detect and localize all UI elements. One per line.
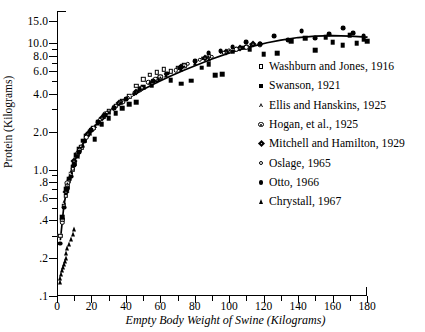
filled-square-marker-icon [261,52,266,57]
open-circle-marker-icon [186,62,190,66]
data-point [93,137,98,142]
filled-circle-marker-icon [123,97,128,102]
open-square-marker-icon [141,77,145,81]
data-point [164,73,168,78]
circle-dot-marker-icon [258,122,263,127]
y-tick-major [49,56,57,57]
x-tick-minor [143,296,144,301]
filled-square-marker-icon [93,137,98,142]
filled-triangle-marker-icon [259,199,263,204]
data-point [330,40,335,45]
filled-circle-marker-icon [299,29,304,34]
filled-circle-marker-icon [230,45,235,50]
data-point [58,241,63,246]
filled-square-marker-icon [179,81,184,86]
y-tick-label: 4.0 [33,88,48,100]
filled-square-marker-icon [220,72,225,77]
legend-item: Hogan, et al., 1925 [253,115,423,134]
filled-circle-marker-icon [313,36,318,41]
legend-label: Ellis and Hanskins, 1925 [269,99,386,112]
legend-item: Oslage, 1965 [253,153,423,172]
x-axis-title: Empty Body Weight of Swine (Kilograms) [0,313,425,328]
y-tick-major [49,170,57,171]
filled-circle-marker-icon [61,205,66,210]
x-tick-label: 60 [155,300,167,312]
x-tick-label: 180 [358,300,375,312]
data-point [111,106,116,111]
y-tick-label: .2 [39,252,48,264]
filled-square-marker-icon [206,62,211,67]
data-point [351,31,356,36]
data-point [72,163,77,168]
filled-square-marker-icon [134,100,139,105]
x-tick-minor [109,296,110,301]
filled-circle-marker-icon [206,50,211,55]
legend: Washburn and Jones, 1916Swanson, 1921Ell… [253,57,423,211]
filled-circle-marker-icon [72,163,77,168]
legend-marker [253,103,269,107]
filled-circle-marker-icon [111,106,116,111]
y-tick-major [49,198,57,199]
filled-circle-marker-icon [218,48,223,53]
data-point [218,48,223,53]
y-tick-label: 1.0 [33,164,48,176]
data-point [179,66,183,71]
data-point [206,62,211,67]
y-tick-major [49,182,57,183]
y-tick-major [49,296,57,297]
filled-circle-marker-icon [58,241,63,246]
data-point [148,73,152,77]
legend-label: Chrystall, 1967 [269,195,341,208]
filled-square-marker-icon [113,111,118,116]
x-tick-label: 100 [221,300,238,312]
legend-item: Washburn and Jones, 1916 [253,57,423,76]
filled-circle-marker-icon [361,33,366,38]
data-point [354,41,359,46]
x-tick-label: 0 [54,300,60,312]
y-tick-major [49,94,57,95]
data-point [123,97,128,102]
data-point [61,205,66,210]
x-tick-minor [281,296,282,301]
open-circle-marker-icon [60,221,64,225]
filled-square-marker-icon [199,65,204,70]
filled-square-marker-icon [365,39,370,44]
data-point [313,36,318,41]
data-point [64,255,68,260]
legend-marker [253,122,269,127]
open-circle-marker-icon [259,161,263,165]
legend-item: Otto, 1966 [253,173,423,192]
data-point [303,36,308,41]
filled-circle-marker-icon [244,40,249,45]
x-tick-minor [178,296,179,301]
y-tick-major [49,71,57,72]
legend-label: Swanson, 1921 [269,79,341,92]
filled-triangle-marker-icon [119,99,123,104]
y-tick-label: 10.0 [27,37,48,49]
filled-square-marker-icon [259,84,264,89]
data-point [88,130,92,135]
y-tick-major [49,132,57,133]
open-circle-marker-icon [244,45,248,49]
filled-triangle-marker-icon [207,56,211,61]
data-point [244,40,249,45]
data-point [272,34,277,39]
x-tick-minor [246,296,247,301]
filled-square-marker-icon [275,51,280,56]
data-point [251,41,256,46]
legend-marker [253,64,269,68]
x-tick-label: 80 [189,300,201,312]
data-point [137,87,142,92]
data-point [65,187,70,192]
filled-triangle-marker-icon [72,226,76,231]
x-tick-label: 20 [86,300,98,312]
data-point [230,45,235,50]
y-tick-major [49,220,57,221]
filled-triangle-marker-icon [148,80,152,85]
legend-label: Mitchell and Hamilton, 1929 [269,137,405,150]
filled-triangle-marker-icon [64,255,68,260]
open-square-marker-icon [58,234,62,238]
x-tick-minor [74,296,75,301]
y-tick-label: .8 [39,176,48,188]
data-point [65,245,69,250]
